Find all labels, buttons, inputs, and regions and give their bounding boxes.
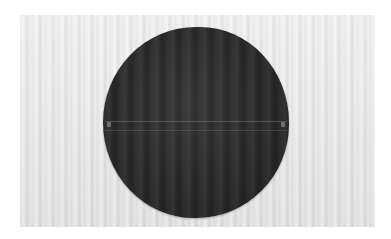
seam-end-right: [281, 122, 285, 127]
seam-end-left: [107, 122, 111, 127]
photograph: [20, 15, 375, 227]
fabric-disc: [103, 27, 289, 218]
horizontal-seam: [105, 121, 287, 131]
